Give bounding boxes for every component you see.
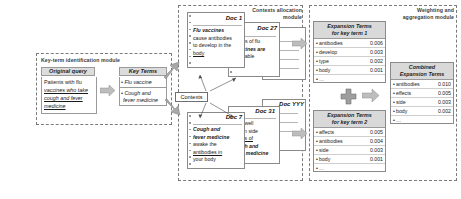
table-row: • body 0.001 <box>314 66 385 75</box>
doc1-line-3: to develop in the <box>193 42 231 48</box>
query-line-4: medicine <box>44 102 94 110</box>
weighting-title-line2: aggregation module <box>386 14 454 21</box>
table-row: • body 0.002 <box>391 107 453 116</box>
combined-table-header-line2: Expansion Terms <box>391 71 453 78</box>
combined-table-header-line1: Combined <box>391 64 453 71</box>
table-row: • side 0.003 <box>314 146 385 155</box>
row-term: type <box>319 58 370 64</box>
expansion-table-1-header: Expansion Terms for key term 1 <box>314 22 385 39</box>
row-term: affects <box>319 129 370 135</box>
arrow-docs-to-expansion-2 <box>292 128 308 139</box>
expansion-table-key-term-1: Expansion Terms for key term 1 • antibod… <box>313 21 386 83</box>
table-row: • develop 0.003 <box>314 48 385 57</box>
row-value: 0.005 <box>438 90 451 96</box>
row-term: antibodies <box>319 138 370 144</box>
row-value: 0.002 <box>370 58 383 64</box>
table-row: • … <box>391 116 453 124</box>
doc1-line-2: cause antibodies <box>193 35 232 41</box>
row-term: … <box>319 165 383 171</box>
key-term-item-2: • Cough and fever medicine <box>121 90 167 105</box>
row-term: antibodies <box>319 40 370 46</box>
doc1-line-1: Flu vaccines <box>193 27 224 33</box>
original-query-box: Patients with flu vaccines who take coug… <box>41 77 97 114</box>
row-term: body <box>319 67 370 73</box>
row-term: side <box>396 99 438 105</box>
original-query-header: Original query <box>41 67 95 76</box>
row-term: develop <box>319 49 370 55</box>
table-row: • side 0.003 <box>391 98 453 107</box>
combined-table-header: Combined Expansion Terms <box>391 63 453 80</box>
combined-expansion-terms-table: Combined Expansion Terms • antibodies 0.… <box>390 62 454 124</box>
expansion-table-key-term-2: Expansion Terms for key term 2 • affects… <box>313 110 386 172</box>
plus-icon <box>340 88 357 105</box>
row-value: 0.003 <box>370 147 383 153</box>
row-value: 0.010 <box>438 81 451 87</box>
query-line-2: vaccines who take <box>44 86 94 94</box>
table-row: • … <box>314 75 385 83</box>
doc7-line-3: awake the <box>193 141 217 147</box>
expansion-table-2-header: Expansion Terms for key term 2 <box>314 111 385 128</box>
query-line-1: Patients with flu <box>44 78 94 86</box>
document-doc1-body: Flu vaccines cause antibodies to develop… <box>193 27 245 57</box>
table-row: • effects 0.005 <box>391 89 453 98</box>
table-row: • antibodies 0.004 <box>314 137 385 146</box>
document-doc1-title: Doc 1 <box>194 15 242 21</box>
row-value: 0.003 <box>370 49 383 55</box>
contexts-allocation-module-title: Contexts allocation module <box>240 7 302 21</box>
key-term-2-bullet: • <box>121 90 123 96</box>
row-term: effects <box>396 90 438 96</box>
row-value: 0.002 <box>438 108 451 114</box>
expansion-table-2-header-line1: Expansion Terms <box>314 112 385 119</box>
table-row: • affects 0.005 <box>314 128 385 137</box>
arrow-docs-to-expansion-1 <box>292 38 308 49</box>
key-terms-header: Key Terms <box>119 67 167 76</box>
key-term-2-label-cont: fever medicine <box>121 97 167 104</box>
row-term: … <box>319 76 383 82</box>
row-value: 0.006 <box>370 40 383 46</box>
query-line-3: cough and fever <box>44 94 94 102</box>
contexts-allocation-title-line2: module <box>240 14 302 21</box>
row-term: body <box>319 156 370 162</box>
doc7-line-5: your body <box>193 156 216 162</box>
contexts-allocation-title-line1: Contexts allocation <box>240 7 302 14</box>
contexts-leader-lines <box>170 55 260 140</box>
row-term: body <box>396 108 438 114</box>
row-value: 0.003 <box>438 99 451 105</box>
row-term: … <box>396 117 451 123</box>
key-term-item-1: • Flu vaccine <box>121 79 167 86</box>
table-row: • type 0.002 <box>314 57 385 66</box>
row-value: 0.001 <box>370 67 383 73</box>
row-term: antibodies <box>396 81 438 87</box>
weighting-title-line1: Weighting and <box>386 7 454 14</box>
key-term-1-label: Flu vaccine <box>124 79 151 85</box>
arrow-query-to-keyterms <box>100 85 116 96</box>
row-term: side <box>319 147 370 153</box>
expansion-table-2-header-line2: for key term 2 <box>314 119 385 126</box>
expansion-table-1-header-line2: for key term 1 <box>314 30 385 37</box>
expansion-table-1-header-line1: Expansion Terms <box>314 23 385 30</box>
key-term-2-label: Cough and <box>124 90 150 96</box>
diagram-canvas: Key-term identification module Original … <box>0 0 461 199</box>
row-value: 0.004 <box>370 138 383 144</box>
table-row: • antibodies 0.006 <box>314 39 385 48</box>
doc7-line-4: antibodies in <box>193 149 222 155</box>
row-value: 0.001 <box>370 156 383 162</box>
table-row: • antibodies 0.010 <box>391 80 453 89</box>
arrow-expansion-to-combined <box>362 89 380 102</box>
key-term-1-bullet: • <box>121 79 123 85</box>
table-row: • body 0.001 <box>314 155 385 164</box>
row-value: 0.005 <box>370 129 383 135</box>
key-term-module-title: Key-term identification module <box>41 57 161 64</box>
doc1-rule <box>193 25 242 26</box>
weighting-module-title: Weighting and aggregation module <box>386 7 454 21</box>
table-row: • … <box>314 164 385 172</box>
